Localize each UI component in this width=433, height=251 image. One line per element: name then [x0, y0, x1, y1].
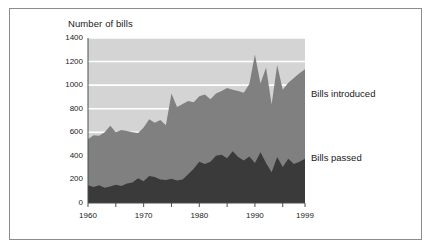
x-tick-label-1990: 1990: [238, 211, 272, 220]
chart-figure: Number of bills 020040060080010001200140…: [0, 0, 433, 251]
y-tick-label-1400: 1400: [53, 33, 83, 42]
y-tick-label-1200: 1200: [53, 57, 83, 66]
y-tick-label-1000: 1000: [53, 80, 83, 89]
y-tick-label-0: 0: [53, 198, 83, 207]
x-tick-label-1999: 1999: [288, 211, 322, 220]
y-tick-label-600: 600: [53, 127, 83, 136]
y-tick-label-800: 800: [53, 104, 83, 113]
x-tick-label-1960: 1960: [71, 211, 105, 220]
y-tick-label-200: 200: [53, 174, 83, 183]
series-label-bills-introduced: Bills introduced: [311, 88, 375, 99]
x-tick-label-1980: 1980: [182, 211, 216, 220]
series-label-bills-passed: Bills passed: [311, 152, 362, 163]
y-tick-label-400: 400: [53, 151, 83, 160]
axis-tick-marks-group: [88, 203, 305, 207]
x-tick-label-1970: 1970: [127, 211, 161, 220]
